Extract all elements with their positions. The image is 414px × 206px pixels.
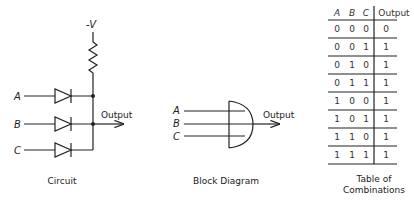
table-cell-output: 1 — [383, 150, 389, 160]
diode-c — [55, 143, 71, 157]
block-input-label-c: C — [173, 131, 180, 142]
table-cell-input: 1 — [363, 78, 369, 88]
block-input-label-a: A — [172, 105, 180, 116]
table-cell-input: 0 — [349, 42, 355, 52]
table-cell-input: 1 — [349, 150, 355, 160]
table-cell-input: 1 — [334, 96, 340, 106]
resistor — [89, 32, 97, 96]
table-cell-input: 0 — [349, 96, 355, 106]
table-cell-input: 0 — [334, 60, 340, 70]
input-label-c: C — [14, 145, 21, 156]
table-cell-input: 1 — [334, 114, 340, 124]
table-cell-input: 0 — [334, 24, 340, 34]
header-b: B — [349, 8, 355, 18]
table-cell-input: 1 — [334, 150, 340, 160]
table-cell-input: 0 — [363, 132, 369, 142]
circuit: -V A B C Output Circuit — [13, 19, 133, 186]
table-cell-input: 0 — [363, 96, 369, 106]
circuit-caption: Circuit — [48, 176, 77, 186]
table-cell-input: 0 — [349, 24, 355, 34]
table-cell-output: 0 — [383, 24, 389, 34]
table-cell-output: 1 — [383, 132, 389, 142]
diagram-canvas: -V A B C Output Circuit — [0, 0, 414, 206]
circuit-output-label: Output — [101, 110, 133, 120]
table-cell-input: 0 — [349, 114, 355, 124]
header-c: C — [363, 8, 370, 18]
table-cell-input: 0 — [334, 78, 340, 88]
table-cell-input: 1 — [349, 78, 355, 88]
header-output: Output — [378, 8, 410, 18]
table-cell-output: 1 — [383, 60, 389, 70]
input-label-b: B — [14, 119, 21, 130]
table-cell-input: 0 — [334, 42, 340, 52]
block-output-label: Output — [263, 110, 295, 120]
table-cell-input: 1 — [363, 42, 369, 52]
table-cell-input: 1 — [363, 150, 369, 160]
header-a: A — [333, 8, 340, 18]
table-caption-line1: Table of — [356, 174, 393, 184]
table-cell-input: 0 — [363, 24, 369, 34]
diode-b — [55, 117, 71, 131]
block-diagram-caption: Block Diagram — [193, 176, 259, 186]
table-cell-input: 1 — [349, 60, 355, 70]
table-cell-input: 1 — [363, 114, 369, 124]
input-label-a: A — [13, 91, 21, 102]
supply-label: -V — [86, 19, 97, 30]
diode-a — [55, 89, 71, 103]
table-cell-input: 1 — [349, 132, 355, 142]
table-cell-output: 1 — [383, 42, 389, 52]
table-cell-input: 1 — [334, 132, 340, 142]
table-cell-output: 1 — [383, 78, 389, 88]
table-caption-line2: Combinations — [343, 185, 405, 195]
block-input-label-b: B — [173, 118, 180, 129]
block-diagram: A B C Output Block Diagram — [172, 101, 295, 186]
table-cell-output: 1 — [383, 96, 389, 106]
table-cell-input: 0 — [363, 60, 369, 70]
truth-table: A B C Output 000000110101011110011011110… — [328, 6, 410, 195]
table-cell-output: 1 — [383, 114, 389, 124]
